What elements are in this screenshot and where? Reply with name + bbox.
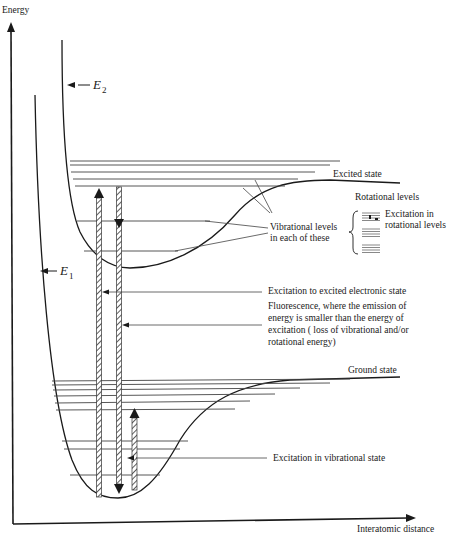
rotational-excitation-label-line1: Excitation in (385, 209, 434, 219)
fluorescence-arrow (114, 187, 124, 494)
e1-subscript: 1 (69, 271, 74, 281)
e1-pointer-arrow-icon (40, 268, 48, 274)
fluorescence-label-line4: rotational energy) (268, 337, 336, 348)
leader-arrow-icon (122, 323, 129, 328)
x-axis-arrow-icon (406, 514, 416, 522)
x-axis-label: Interatomic distance (357, 524, 434, 534)
fluorescence-label-line2: energy is smaller than the energy of (268, 313, 405, 323)
rotational-levels-title: Rotational levels (355, 192, 419, 202)
e1-label: E 1 (40, 263, 74, 281)
e2-subscript: 2 (102, 85, 107, 95)
e2-symbol: E (92, 77, 101, 92)
vibrational-levels-label-line1: Vibrational levels (270, 222, 338, 232)
brace-icon (349, 211, 358, 254)
vibrational-leader-lines (175, 180, 272, 251)
leader-arrow-icon (102, 290, 109, 295)
rotational-excitation-label-line2: rotational levels (385, 220, 446, 230)
ground-state-label: Ground state (348, 365, 397, 375)
vibrational-levels-label-line2: in each of these (270, 233, 329, 243)
electronic-excitation-leader (102, 290, 262, 295)
e2-pointer-arrow-icon (67, 82, 75, 88)
down-arrow-head-icon (114, 219, 124, 228)
y-axis-arrow-icon (7, 22, 15, 32)
leader-arrow-icon (127, 456, 134, 461)
y-axis (11, 30, 13, 524)
excited-state-curve (62, 40, 400, 268)
up-arrow-head-icon (94, 188, 104, 198)
electronic-excitation-label: Excitation to excited electronic state (268, 286, 406, 296)
electronic-excitation-arrow (94, 188, 104, 497)
e2-label: E 2 (67, 77, 107, 95)
vibrational-excitation-label: Excitation in vibrational state (273, 453, 385, 463)
fluorescence-label-line3: excitation ( loss of vibrational and/or (268, 325, 409, 336)
ground-state-curve (35, 95, 400, 498)
fluorescence-leader (122, 323, 262, 328)
x-axis (13, 518, 408, 524)
excited-state-label: Excited state (333, 169, 382, 179)
down-arrow-head-bottom-icon (114, 484, 124, 494)
y-axis-label: Energy (2, 5, 30, 15)
vibrational-excitation-leader (127, 456, 267, 461)
energy-diagram: Energy Interatomic distance E 2 E (0, 0, 453, 536)
e1-symbol: E (59, 263, 68, 278)
fluorescence-label-line1: Fluorescence, where the emission of (268, 301, 407, 311)
